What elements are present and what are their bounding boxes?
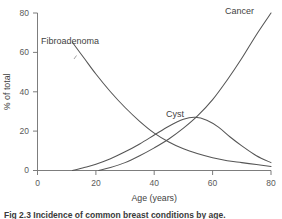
x-tick-label-80: 80 [266, 178, 276, 188]
y-tick-label-0: 0 [24, 165, 29, 175]
figure-caption: Fig 2.3 Incidence of common breast condi… [4, 210, 282, 219]
curve-fibroadenoma [73, 43, 271, 167]
y-axis-title: % of total [3, 73, 13, 110]
data-curves [73, 13, 271, 171]
y-axis-tick-labels: 0 20 40 60 80 [20, 8, 30, 176]
series-label-fibroadenoma: Fibroadenoma [41, 36, 99, 46]
figure-container: 0 20 40 60 80 0 20 40 60 80 Age (years) … [0, 0, 282, 219]
line-chart: 0 20 40 60 80 0 20 40 60 80 Age (years) … [0, 0, 282, 219]
y-tick-label-80: 80 [20, 8, 30, 18]
y-tick-label-20: 20 [20, 126, 30, 136]
x-tick-label-0: 0 [35, 178, 40, 188]
y-tick-label-40: 40 [20, 87, 30, 97]
x-axis-title: Age (years) [131, 193, 177, 203]
series-label-cancer: Cancer [225, 6, 254, 16]
y-tick-label-60: 60 [20, 47, 30, 57]
curve-cancer [99, 13, 271, 171]
x-tick-label-20: 20 [91, 178, 101, 188]
x-axis-ticks [38, 171, 272, 176]
x-axis-tick-labels: 0 20 40 60 80 [35, 178, 276, 188]
x-tick-label-40: 40 [149, 178, 159, 188]
series-label-cyst: Cyst [166, 109, 184, 119]
series-labels: Fibroadenoma Cyst Cancer [41, 6, 254, 119]
x-tick-label-60: 60 [208, 178, 218, 188]
fibroadenoma-leader-line [74, 56, 77, 60]
y-axis-ticks [33, 13, 38, 171]
